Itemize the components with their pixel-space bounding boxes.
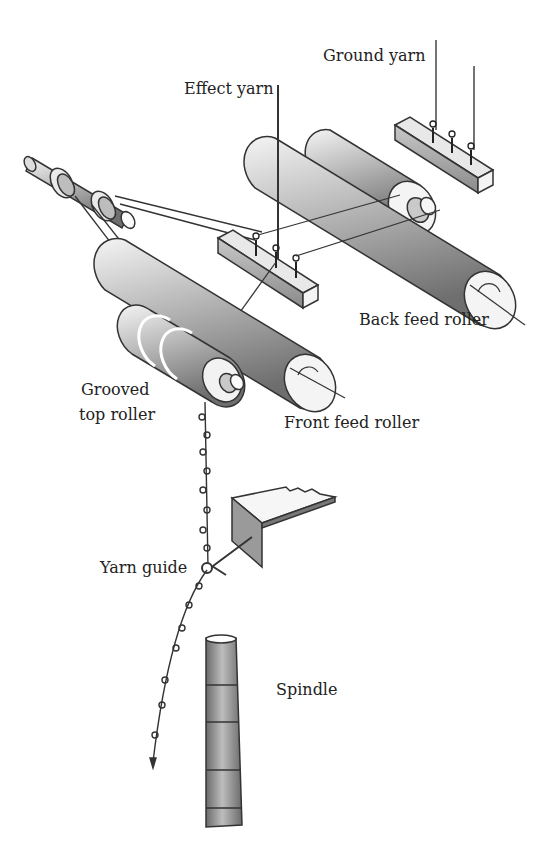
grooved-top-roller-label-line1: Grooved [81, 381, 149, 399]
machine-illustration [0, 0, 560, 863]
fancy-yarn-vertical [199, 402, 210, 567]
back-feed-roller-label: Back feed roller [359, 311, 489, 329]
spindle [206, 635, 242, 827]
grooved-top-roller-label-line2: top roller [79, 406, 155, 424]
effect-yarn-guide-bar [218, 230, 318, 308]
ground-yarn-label: Ground yarn [323, 47, 426, 65]
fancy-yarn-to-spindle [150, 570, 207, 768]
yarn-guide-bracket [202, 487, 335, 575]
yarn-guide-label: Yarn guide [100, 559, 187, 577]
effect-yarn-label: Effect yarn [184, 80, 274, 98]
drive-shaft-with-pulleys [22, 155, 138, 231]
diagram-canvas: Ground yarn Effect yarn Back feed roller… [0, 0, 560, 863]
spindle-label: Spindle [276, 681, 337, 699]
front-feed-roller-label: Front feed roller [284, 414, 419, 432]
